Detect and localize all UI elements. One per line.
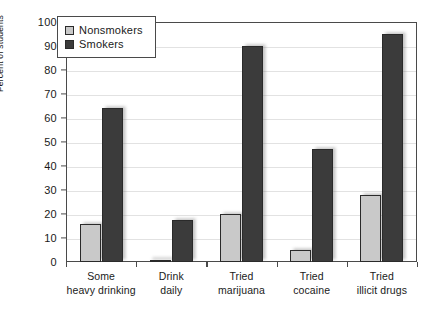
legend: Nonsmokers Smokers [57, 16, 156, 58]
y-tick-label: 90 [11, 40, 57, 52]
bar-nonsmokers [80, 224, 101, 262]
y-tick-label: 50 [11, 136, 57, 148]
legend-label-smokers: Smokers [79, 38, 124, 50]
bar-nonsmokers [150, 260, 171, 262]
legend-label-nonsmokers: Nonsmokers [79, 24, 143, 36]
bar-group [150, 22, 193, 262]
bar-smokers [172, 220, 193, 262]
legend-swatch-smokers [65, 40, 74, 49]
bar-nonsmokers [290, 250, 311, 262]
bar-smokers [242, 46, 263, 262]
x-tick-mark [206, 262, 207, 267]
bar-chart: Percent of students 01020304050607080901… [0, 0, 430, 311]
x-axis-label-line: illicit drugs [335, 284, 429, 298]
bar-nonsmokers [360, 195, 381, 262]
bar-groups [66, 22, 417, 262]
bar-nonsmokers [220, 214, 241, 262]
y-tick-label: 20 [11, 208, 57, 220]
bar-group [220, 22, 263, 262]
x-tick-mark [277, 262, 278, 267]
y-tick-label: 60 [11, 112, 57, 124]
bar-group [360, 22, 403, 262]
legend-swatch-nonsmokers [65, 26, 74, 35]
x-axis-label-line: Tried [335, 270, 429, 284]
y-tick-label: 30 [11, 184, 57, 196]
y-tick-label: 40 [11, 160, 57, 172]
y-tick-label: 80 [11, 64, 57, 76]
legend-item-nonsmokers: Nonsmokers [65, 23, 143, 37]
y-tick-label: 0 [11, 256, 57, 268]
x-tick-mark [136, 262, 137, 267]
x-tick-mark [417, 262, 418, 267]
bar-group [80, 22, 123, 262]
bar-smokers [382, 34, 403, 262]
legend-item-smokers: Smokers [65, 37, 143, 51]
y-tick-label: 10 [11, 232, 57, 244]
bar-group [290, 22, 333, 262]
x-tick-mark [347, 262, 348, 267]
x-axis-label: Triedillicit drugs [335, 270, 429, 297]
y-tick-label: 70 [11, 88, 57, 100]
x-tick-mark [66, 262, 67, 267]
bar-smokers [102, 108, 123, 262]
bar-smokers [312, 149, 333, 262]
y-tick-label: 100 [11, 16, 57, 28]
y-axis-title: Percent of students [0, 0, 5, 92]
